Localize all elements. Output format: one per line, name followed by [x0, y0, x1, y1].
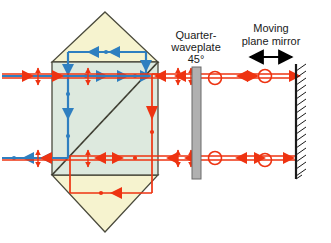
pol-circ-3 — [209, 152, 222, 165]
label-moving-plane-mirror: Moving plane mirror — [242, 22, 301, 47]
red-arrow-low-8 — [283, 152, 295, 164]
red-arrow-low-1 — [40, 152, 52, 164]
blue-dot-top — [104, 50, 108, 54]
mirror-label-line2: plane mirror — [242, 35, 301, 47]
waveplate-label-line3: 45° — [188, 53, 205, 65]
mirror-label-line1: Moving — [253, 22, 288, 34]
label-quarter-waveplate: Quarter- waveplate 45° — [170, 29, 221, 65]
red-dot-low — [133, 156, 137, 160]
blue-dot-vert-a — [66, 92, 70, 96]
blue-dot-vert-b — [66, 134, 70, 138]
red-dot-vert — [150, 130, 154, 134]
figure-canvas: Quarter- waveplate 45° Moving plane mirr… — [0, 0, 331, 243]
optics-diagram: Quarter- waveplate 45° Moving plane mirr… — [0, 0, 331, 243]
pol-circ-2 — [259, 70, 272, 83]
moving-plane-mirror[interactable] — [296, 64, 306, 179]
quarter-waveplate-body[interactable] — [192, 67, 201, 179]
mirror-hatching — [296, 64, 306, 179]
red-arrow-ur-out-1 — [247, 70, 259, 82]
red-arrow-in-1 — [22, 70, 34, 82]
red-arrow-ur-3 — [236, 70, 248, 82]
red-dot-loop — [99, 191, 103, 195]
waveplate-label-line1: Quarter- — [176, 29, 217, 41]
waveplate-label-line2: waveplate — [170, 41, 221, 53]
red-arrow-low-6 — [235, 152, 247, 164]
prism-bottom-triangle — [52, 175, 158, 232]
circular-polarization-markers — [209, 70, 272, 167]
red-arrow-low-4 — [166, 152, 178, 164]
blue-arrow-lower-out-a — [22, 152, 34, 164]
quarter-waveplate[interactable] — [192, 67, 201, 179]
